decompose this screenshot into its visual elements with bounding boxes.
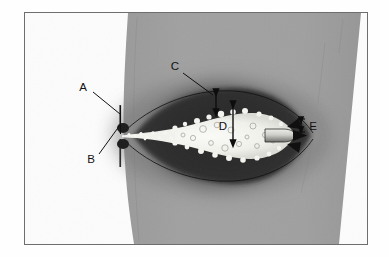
label-e: E bbox=[309, 120, 317, 132]
label-d: D bbox=[219, 120, 227, 132]
label-a-leader bbox=[93, 92, 120, 114]
label-b: B bbox=[87, 153, 95, 165]
dimension-e-arrow bbox=[297, 119, 305, 132]
label-a: A bbox=[79, 81, 87, 93]
photo-frame: A B C D E bbox=[24, 12, 368, 245]
annotation-overlay: A B C D E bbox=[25, 13, 367, 244]
label-c-leader bbox=[183, 73, 213, 95]
label-c: C bbox=[171, 60, 179, 72]
label-b-leader bbox=[99, 125, 120, 154]
figure-canvas: A B C D E bbox=[0, 0, 389, 257]
photograph: A B C D E bbox=[25, 13, 367, 244]
